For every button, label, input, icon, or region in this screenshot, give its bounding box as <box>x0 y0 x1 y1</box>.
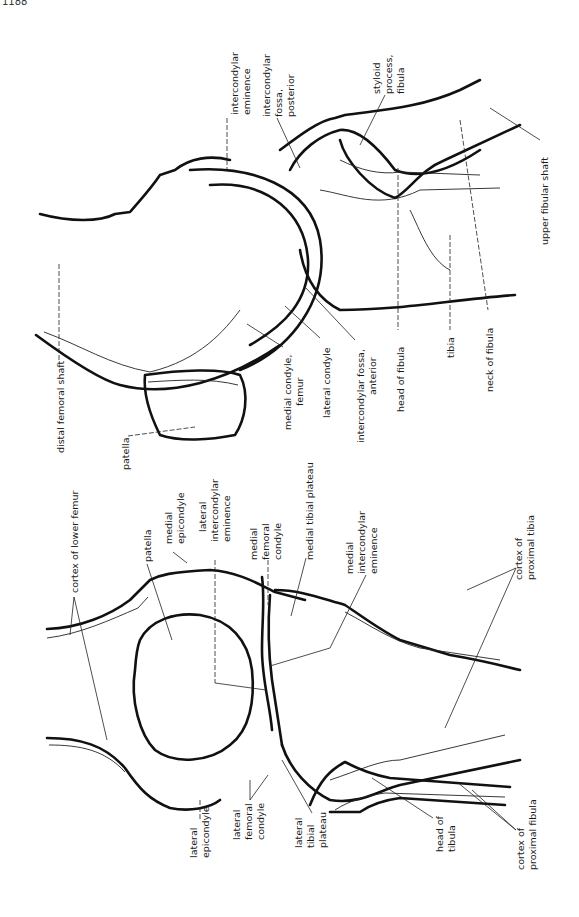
label-medial-condyle-femur: medial condyle,femur <box>282 355 305 430</box>
label-intercondylar-fossa-posterior: intercondylarfossa,posterior <box>261 54 296 117</box>
fibula-curve <box>410 210 450 270</box>
lateral-view-drawing <box>36 80 520 440</box>
tibia-outline-anterior <box>300 250 515 310</box>
ap-view-labels: cortex of lower femur patella medialepic… <box>69 462 538 870</box>
femur-cortex-bottom-outer <box>47 738 220 810</box>
label-head-of-tibula: head oftibula <box>434 815 457 852</box>
tibia-cortex-top-inner <box>345 612 500 660</box>
fibula-outline <box>340 125 520 198</box>
femoral-condyle-outline <box>190 169 322 370</box>
label-lateral-tibial-plateau: lateraltibialplateau <box>293 812 328 848</box>
label-head-of-fibula: head of fibula <box>395 347 406 412</box>
label-medial-tibial-plateau: medial tibial plateau <box>304 462 315 560</box>
patella-ap-outline <box>134 614 253 759</box>
tibia-outline-top <box>275 590 520 670</box>
ap-view-drawing <box>47 570 520 812</box>
label-distal-femoral-shaft: distal femoral shaft <box>55 361 66 453</box>
tibia-cortex-bottom-inner <box>330 735 505 780</box>
femur-outline-upper <box>40 158 230 220</box>
label-lateral-epicondyle: lateralepicondyle <box>188 806 211 858</box>
label-styloid-process-fibula: styloidprocess,fibula <box>371 54 406 94</box>
knee-anatomy-diagram: 1188 intercond <box>0 0 579 917</box>
label-medial-epicondyle: medialepicondyle <box>163 492 186 544</box>
lateral-condyle-outline <box>210 185 308 345</box>
label-medial-intercondylar-eminence: medialintercondylareminence <box>344 511 379 574</box>
label-cortex-of-proximal-tibia: cortex ofproximal tibia <box>513 515 536 580</box>
tibia-outline-posterior <box>290 130 480 174</box>
page-number-fragment: 1188 <box>2 0 27 7</box>
label-upper-fibular-shaft: upper fibular shaft <box>539 157 550 245</box>
label-patella-lateral: patella <box>120 437 131 470</box>
label-intercondylar-fossa-anterior: intercondylar fossa,anterior <box>355 349 378 443</box>
label-tibia: tibia <box>445 337 456 358</box>
label-neck-of-fibula: neck of fibula <box>484 328 495 392</box>
label-medial-femoral-condyle: medialfemoralcondyle <box>248 523 283 560</box>
label-lateral-intercondylar-eminence: lateralintercondylareminence <box>197 479 232 542</box>
label-intercondylar-eminence: intercondylareminence <box>229 52 252 115</box>
patella-outline <box>145 370 246 439</box>
label-cortex-of-proximal-fibula: cortex ofproximal fibula <box>515 799 538 870</box>
fibula-cortex-inner <box>335 793 505 810</box>
femur-cortex-top-outer <box>47 570 305 629</box>
tibia-inner-line <box>320 188 500 200</box>
label-lateral-condyle: lateral condyle <box>321 347 332 418</box>
label-cortex-of-lower-femur: cortex of lower femur <box>69 490 80 593</box>
femur-inner-line <box>44 310 240 372</box>
tibia-outline-bottom <box>282 745 520 801</box>
label-patella-ap: patella <box>142 529 153 562</box>
label-lateral-femoral-condyle: lateralfemoralcondyle <box>231 803 266 840</box>
